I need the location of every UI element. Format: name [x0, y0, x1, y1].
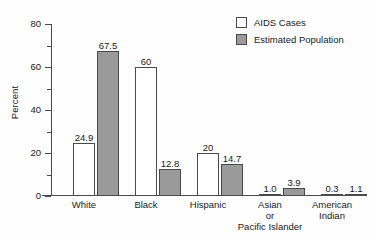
bar-aids-black[interactable]: 60 [135, 67, 157, 196]
y-tick-minor-30 [47, 132, 51, 133]
y-tick-minor-50 [47, 89, 51, 90]
x-category-label-american-indian: American Indian [288, 199, 375, 221]
y-tick-minor-10 [47, 175, 51, 176]
y-tick-80: 80 [45, 24, 51, 25]
legend-item-estimated-population[interactable]: Estimated Population [236, 34, 344, 45]
bar-value-population-american-indian: 1.1 [349, 183, 362, 194]
y-tick-0: 0 [45, 196, 51, 197]
bar-value-population-hispanic: 14.7 [223, 153, 242, 164]
bar-chart: Percent 0 20 40 60 80 24.9 [0, 0, 375, 239]
x-category-label-asian-pacific-islander-line-3: Pacific Islander [226, 221, 314, 232]
y-tick-minor-70 [47, 46, 51, 47]
bar-aids-american-indian[interactable]: 0.3 [321, 194, 343, 196]
y-tick-label-80: 80 [30, 18, 41, 29]
bar-aids-hispanic[interactable]: 20 [197, 153, 219, 196]
legend: AIDS Cases Estimated Population [236, 17, 344, 51]
y-tick-label-40: 40 [30, 104, 41, 115]
bar-aids-white[interactable]: 24.9 [73, 143, 95, 197]
bar-population-white[interactable]: 67.5 [97, 51, 119, 196]
bar-group-white: 24.9 67.5 [62, 24, 130, 196]
legend-label-estimated-population: Estimated Population [254, 34, 344, 45]
bar-value-aids-american-indian: 0.3 [325, 183, 338, 194]
y-tick-label-20: 20 [30, 147, 41, 158]
y-tick-20: 20 [45, 153, 51, 154]
bar-group-black: 60 12.8 [124, 24, 192, 196]
bar-aids-asian-pacific-islander[interactable]: 1.0 [259, 194, 281, 196]
bar-value-population-black: 12.8 [161, 158, 180, 169]
y-axis-line [51, 24, 52, 196]
legend-item-aids-cases[interactable]: AIDS Cases [236, 17, 344, 28]
bar-value-aids-hispanic: 20 [203, 142, 214, 153]
x-category-label-american-indian-line-2: Indian [288, 210, 375, 221]
hollow-square-icon [236, 17, 247, 28]
y-tick-label-60: 60 [30, 61, 41, 72]
legend-label-aids-cases: AIDS Cases [254, 17, 306, 28]
x-category-label-american-indian-line-1: American [288, 199, 375, 210]
y-tick-40: 40 [45, 110, 51, 111]
bar-value-aids-black: 60 [141, 56, 152, 67]
y-axis-title: Percent [9, 73, 20, 133]
bar-value-aids-asian-pacific-islander: 1.0 [263, 183, 276, 194]
filled-square-icon [236, 34, 247, 45]
bar-population-american-indian[interactable]: 1.1 [345, 194, 367, 196]
bar-population-hispanic[interactable]: 14.7 [221, 164, 243, 196]
y-tick-60: 60 [45, 67, 51, 68]
bar-value-population-white: 67.5 [99, 40, 118, 51]
bar-population-asian-pacific-islander[interactable]: 3.9 [283, 188, 305, 196]
bar-value-population-asian-pacific-islander: 3.9 [287, 177, 300, 188]
bar-population-black[interactable]: 12.8 [159, 169, 181, 197]
bar-value-aids-white: 24.9 [75, 132, 94, 143]
